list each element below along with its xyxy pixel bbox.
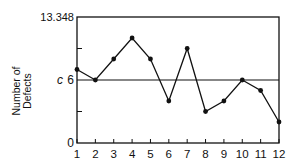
data-point <box>203 109 208 114</box>
x-tick-label: 7 <box>184 148 190 160</box>
data-point <box>111 57 116 62</box>
x-tick-label: 5 <box>147 148 153 160</box>
control-chart: 0613.348c 123456789101112 <box>0 0 300 168</box>
x-tick-label: 3 <box>111 148 117 160</box>
data-point <box>258 88 263 93</box>
data-point <box>277 120 282 125</box>
center-line-label: c <box>57 73 63 87</box>
x-tick-label: 4 <box>129 148 136 160</box>
data-point <box>75 67 80 72</box>
x-tick-label: 1 <box>74 148 80 160</box>
data-point <box>93 78 98 83</box>
x-tick-label: 12 <box>273 148 286 160</box>
data-point <box>185 46 190 51</box>
y-tick-labels: 0613.348c <box>40 11 74 150</box>
x-tick-label: 8 <box>202 148 208 160</box>
data-point <box>130 36 135 41</box>
data-point <box>222 99 227 104</box>
y-tick-label: 6 <box>67 73 74 87</box>
y-tick-label: 13.348 <box>40 11 74 23</box>
data-point <box>148 57 153 62</box>
x-tick-label: 6 <box>166 148 172 160</box>
x-tick-label: 10 <box>236 148 249 160</box>
data-point <box>240 78 245 83</box>
x-tick-label: 2 <box>92 148 98 160</box>
x-tick-label: 9 <box>221 148 227 160</box>
axis-ticks <box>77 49 279 144</box>
x-tick-label: 11 <box>255 148 267 160</box>
data-point <box>166 99 171 104</box>
x-tick-labels: 123456789101112 <box>74 148 286 160</box>
